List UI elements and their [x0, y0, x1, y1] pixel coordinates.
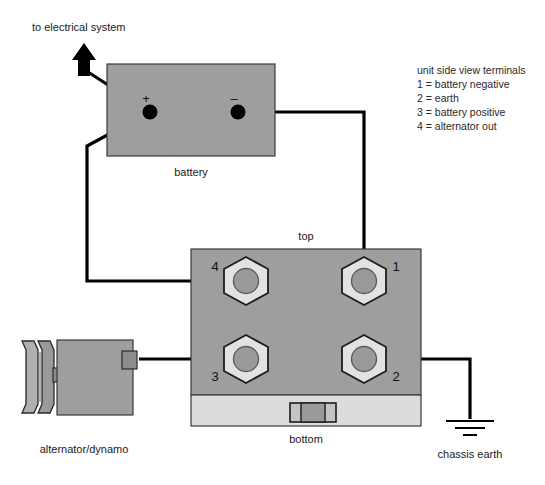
diagram-svg: to electrical system + – battery top [0, 0, 545, 485]
electrical-system-arrow [72, 43, 96, 76]
battery-positive-terminal [143, 105, 158, 120]
terminal-1-label: 1 [392, 259, 399, 274]
wiring-diagram-canvas: to electrical system + – battery top [0, 0, 545, 485]
alternator-label: alternator/dynamo [40, 443, 129, 455]
legend-entry-2: 2 = earth [417, 92, 459, 104]
terminal-4-label: 4 [211, 259, 218, 274]
battery-body [107, 64, 275, 156]
battery-positive-sign: + [142, 91, 150, 106]
battery-component: + – [107, 64, 275, 156]
terminal-3-label: 3 [211, 369, 218, 384]
electrical-system-label: to electrical system [32, 21, 126, 33]
chassis-earth-label: chassis earth [438, 448, 503, 460]
battery-label: battery [174, 166, 208, 178]
regulator-bottom-label: bottom [289, 433, 323, 445]
battery-negative-sign: – [230, 91, 238, 106]
regulator-bottom-connector [290, 403, 336, 422]
regulator-unit: 4 1 3 2 [191, 249, 421, 426]
battery-negative-terminal [231, 105, 246, 120]
alternator-output-terminal [122, 351, 137, 369]
regulator-top-label: top [298, 230, 313, 242]
legend-entry-3: 3 = battery positive [417, 106, 506, 118]
legend-heading: unit side view terminals [417, 64, 526, 76]
terminal-2-label: 2 [392, 369, 399, 384]
legend-entry-4: 4 = alternator out [417, 120, 497, 132]
chassis-earth-symbol [446, 421, 494, 435]
legend-entry-1: 1 = battery negative [417, 78, 510, 90]
alternator-component [22, 340, 137, 415]
legend-block: unit side view terminals 1 = battery neg… [417, 64, 526, 132]
alternator-pulley [22, 341, 54, 413]
